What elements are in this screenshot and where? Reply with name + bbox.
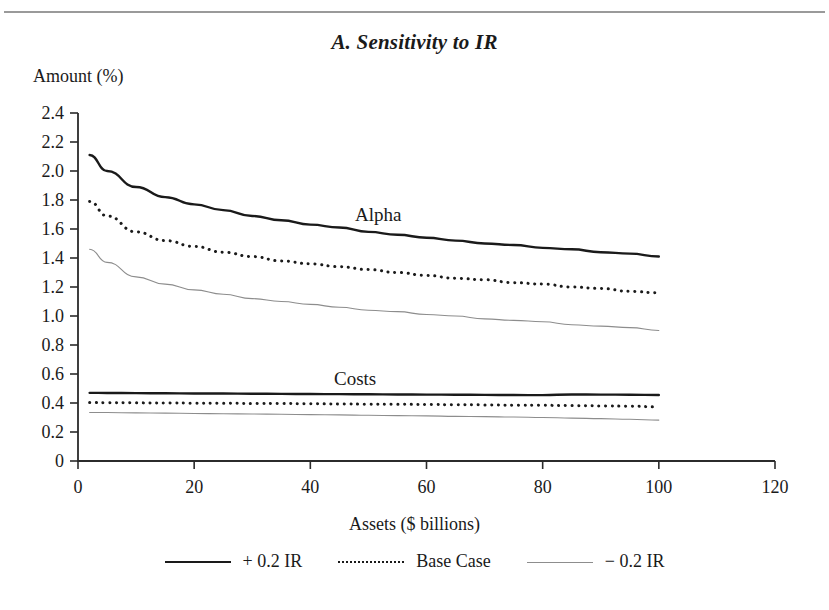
legend-swatch-thin-icon <box>527 556 593 568</box>
axes <box>78 113 775 461</box>
legend-swatch-dotted-icon <box>338 556 404 568</box>
y-tick-label: 1.0 <box>42 306 65 326</box>
series-line <box>90 412 659 420</box>
legend-item-minus-ir[interactable]: − 0.2 IR <box>527 551 665 572</box>
series-line <box>90 403 659 407</box>
legend-label-plus-ir: + 0.2 IR <box>243 551 303 572</box>
y-tick-label: 0 <box>55 451 64 471</box>
legend-item-base-case[interactable]: Base Case <box>338 551 490 572</box>
y-tick-label: 1.8 <box>42 190 65 210</box>
y-tick-label: 2.2 <box>42 132 65 152</box>
alpha-series-label: Alpha <box>355 204 402 225</box>
x-tick-label: 100 <box>645 477 672 497</box>
costs-series-label: Costs <box>334 368 376 389</box>
y-tick-label: 0.2 <box>42 422 65 442</box>
y-tick-label: 0.4 <box>42 393 65 413</box>
y-tick-label: 1.4 <box>42 248 65 268</box>
y-tick-label: 1.2 <box>42 277 65 297</box>
series-line <box>90 249 659 330</box>
y-tick-label: 2.4 <box>42 103 65 123</box>
x-tick-label: 20 <box>185 477 203 497</box>
chart-legend: + 0.2 IR Base Case − 0.2 IR <box>0 551 829 572</box>
y-tick-label: 2.0 <box>42 161 65 181</box>
legend-label-minus-ir: − 0.2 IR <box>605 551 665 572</box>
series-line <box>90 393 659 395</box>
x-tick-label: 40 <box>301 477 319 497</box>
x-tick-label: 60 <box>418 477 436 497</box>
chart-page: A. Sensitivity to IR Amount (%) 00.20.40… <box>0 0 829 610</box>
y-tick-label: 1.6 <box>42 219 65 239</box>
legend-item-plus-ir[interactable]: + 0.2 IR <box>165 551 303 572</box>
x-axis-ticks: 020406080100120 <box>74 461 789 497</box>
x-axis-title: Assets ($ billions) <box>0 514 829 535</box>
x-tick-label: 80 <box>534 477 552 497</box>
x-tick-label: 0 <box>74 477 83 497</box>
legend-swatch-solid-icon <box>165 556 231 568</box>
x-tick-label: 120 <box>762 477 789 497</box>
y-axis-ticks: 00.20.40.60.81.01.21.41.61.82.02.22.4 <box>42 103 79 471</box>
legend-label-base-case: Base Case <box>416 551 490 572</box>
y-tick-label: 0.8 <box>42 335 65 355</box>
y-tick-label: 0.6 <box>42 364 65 384</box>
